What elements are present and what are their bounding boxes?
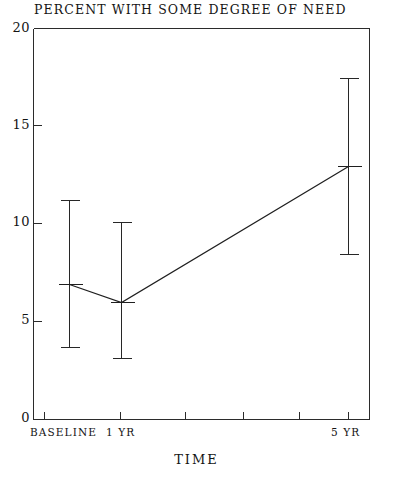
- plot-area: [0, 0, 393, 479]
- data-line-series: [70, 167, 349, 303]
- chart-container: PERCENT WITH SOME DEGREE OF NEED 20 15 1…: [0, 0, 393, 479]
